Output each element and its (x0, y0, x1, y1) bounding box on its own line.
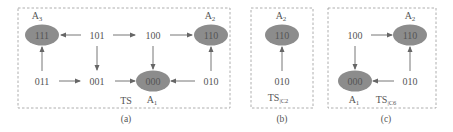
tag-a1: A1 (147, 94, 158, 107)
panel-b-caption: (b) (276, 114, 287, 125)
tag-a2: A2 (205, 10, 216, 23)
tag-a2: A2 (276, 10, 287, 23)
panel-a: A3 111 101 100 A2 110 011 001 000 A1 010… (18, 8, 230, 125)
panel-b: A2 110 010 TS|C2 (b) (251, 8, 313, 125)
node-000-label: 000 (348, 76, 363, 87)
tag-a2: A2 (405, 10, 416, 23)
panel-c-border (328, 8, 436, 108)
node-011-label: 011 (35, 76, 50, 87)
panel-b-ts-label: TS|C2 (268, 92, 289, 104)
node-101-label: 101 (90, 30, 105, 41)
panel-c-caption: (c) (381, 114, 392, 125)
node-110-label: 110 (275, 30, 290, 41)
node-010-label: 010 (204, 76, 219, 87)
node-000-label: 000 (146, 76, 161, 87)
node-010-label: 010 (275, 76, 290, 87)
node-001-label: 001 (90, 76, 105, 87)
node-010-label: 010 (403, 76, 418, 87)
node-100-label: 100 (348, 30, 363, 41)
panel-a-ts-label: TS (120, 95, 132, 106)
node-110-label: 110 (403, 30, 418, 41)
panel-a-border (18, 8, 230, 108)
panel-a-caption: (a) (121, 114, 132, 125)
node-110-label: 110 (204, 30, 219, 41)
panel-c: 100 A2 110 000 A1 010 TS|C6 (c) (328, 8, 436, 125)
transition-system-diagram: A3 111 101 100 A2 110 011 001 000 A1 010… (0, 0, 453, 132)
node-111-label: 111 (35, 30, 49, 41)
panel-c-ts-label: TS|C6 (376, 94, 397, 106)
tag-a3: A3 (32, 10, 43, 23)
node-100-label: 100 (146, 30, 161, 41)
tag-a1: A1 (349, 94, 360, 107)
